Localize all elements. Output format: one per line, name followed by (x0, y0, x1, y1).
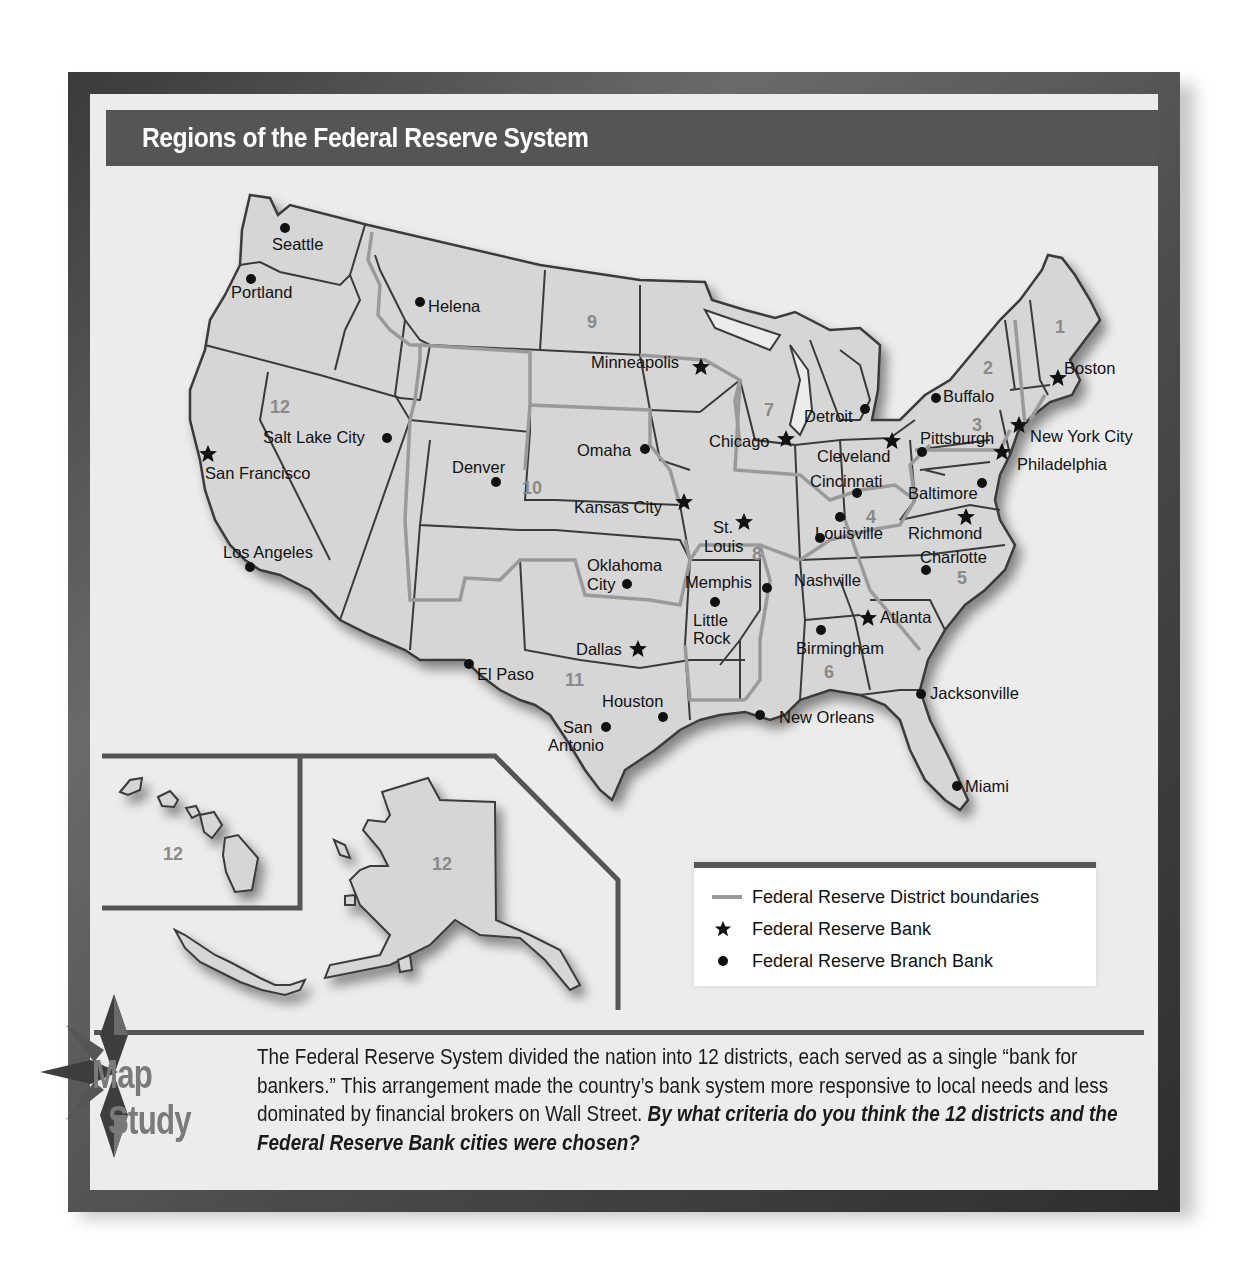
city-label: Nashville (794, 571, 861, 589)
dot-icon (382, 433, 392, 443)
city-label: Boston (1064, 359, 1115, 377)
inset-district-number: 12 (432, 854, 452, 874)
dot-icon (816, 625, 826, 635)
dot-icon (917, 447, 927, 457)
district-number: 7 (764, 400, 774, 420)
dot-icon (916, 689, 926, 699)
dot-icon (921, 565, 931, 575)
dot-icon (977, 478, 987, 488)
city-label: El Paso (477, 665, 534, 683)
legend-item-district-boundaries: Federal Reserve District boundaries (694, 882, 1039, 912)
city-label: St. (713, 518, 733, 536)
divider (94, 1030, 1144, 1035)
dot-icon (835, 512, 845, 522)
city-label: Portland (231, 283, 292, 301)
dot-icon (601, 722, 611, 732)
city-label: Helena (428, 297, 481, 315)
district-number: 11 (565, 670, 584, 690)
city-label: Philadelphia (1017, 455, 1108, 473)
city-label: Cleveland (817, 447, 890, 465)
district-number: 10 (522, 478, 542, 498)
district-number: 12 (270, 397, 290, 417)
dot-icon (952, 781, 962, 791)
district-number: 9 (587, 312, 597, 332)
map-study-word-study: Study (108, 1098, 191, 1143)
city-label: Omaha (577, 441, 632, 459)
legend-label: Federal Reserve Bank (752, 919, 931, 940)
city-label: Seattle (272, 235, 323, 253)
city-label: Atlanta (880, 608, 932, 626)
dot-icon (694, 955, 752, 967)
legend-item-branch-bank: Federal Reserve Branch Bank (694, 946, 993, 976)
district-number: 8 (752, 544, 762, 564)
dot-icon (491, 477, 501, 487)
city-label: Miami (965, 777, 1009, 795)
city-label: Charlotte (920, 548, 987, 566)
inset-district-number: 12 (163, 844, 183, 864)
hawaii-inset (120, 778, 258, 892)
city-label: Little (693, 611, 728, 629)
city-label: San (563, 718, 592, 736)
district-number: 6 (824, 662, 834, 682)
city-label: Denver (452, 458, 506, 476)
city-label: Richmond (908, 524, 982, 542)
dot-icon (658, 712, 668, 722)
city-label: City (587, 575, 616, 593)
dot-icon (622, 579, 632, 589)
dot-icon (755, 710, 765, 720)
city-label: Salt Lake City (263, 428, 366, 446)
dot-icon (464, 659, 474, 669)
dot-icon (280, 223, 290, 233)
district-line-icon (694, 895, 752, 899)
district-number: 2 (983, 358, 993, 378)
city-label: Chicago (709, 432, 770, 450)
dot-icon (415, 297, 425, 307)
city-label: Houston (602, 692, 663, 710)
city-label: Louis (704, 537, 743, 555)
city-label: Minneapolis (591, 353, 679, 371)
dot-icon (931, 393, 941, 403)
map-legend: Federal Reserve District boundaries Fede… (694, 862, 1096, 986)
map-study-caption: The Federal Reserve System divided the n… (257, 1043, 1143, 1157)
city-label: Pittsburgh (920, 429, 994, 447)
city-label: Los Angeles (223, 543, 313, 561)
city-label: Buffalo (943, 387, 994, 405)
city-label: New Orleans (779, 708, 874, 726)
dot-icon (860, 404, 870, 414)
city-label: New York City (1030, 427, 1133, 445)
city-label: Jacksonville (930, 684, 1019, 702)
dot-icon (710, 597, 720, 607)
dot-icon (640, 444, 650, 454)
legend-label: Federal Reserve District boundaries (752, 887, 1039, 908)
city-label: Rock (693, 629, 731, 647)
city-label: San Francisco (205, 464, 310, 482)
map-study-badge: Map Study (36, 990, 236, 1190)
city-label: Detroit (804, 407, 853, 425)
city-label: Louisville (815, 524, 883, 542)
dot-icon (762, 583, 772, 593)
city-label: Kansas City (574, 498, 663, 516)
city-label: Cincinnati (810, 472, 882, 490)
city-label: Dallas (576, 640, 622, 658)
legend-item-reserve-bank: Federal Reserve Bank (694, 914, 931, 944)
legend-label: Federal Reserve Branch Bank (752, 951, 993, 972)
district-number: 1 (1055, 317, 1065, 337)
city-label: Baltimore (908, 484, 978, 502)
city-label: Antonio (548, 736, 604, 754)
city-label: Oklahoma (587, 556, 663, 574)
map-study-word-map: Map (92, 1052, 152, 1097)
dot-icon (245, 562, 255, 572)
city-label: Memphis (685, 573, 752, 591)
star-icon (694, 920, 752, 938)
city-label: Birmingham (796, 639, 884, 657)
district-number: 5 (957, 568, 967, 588)
